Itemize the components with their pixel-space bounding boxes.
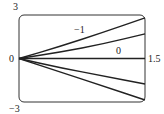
curve-4 — [19, 59, 145, 85]
curve-label-0: 0 — [116, 45, 121, 56]
x-right-tick-label: 1.5 — [148, 53, 161, 64]
y-top-tick-label: 3 — [13, 1, 18, 12]
origin-label: 0 — [9, 53, 14, 64]
curve-5 — [19, 59, 145, 100]
chart: 3 −3 0 1.5 −1 0 — [0, 0, 164, 114]
y-bottom-tick-label: −3 — [9, 103, 20, 114]
curve-2 — [19, 34, 145, 59]
curve-label-minus-1: −1 — [74, 24, 85, 35]
